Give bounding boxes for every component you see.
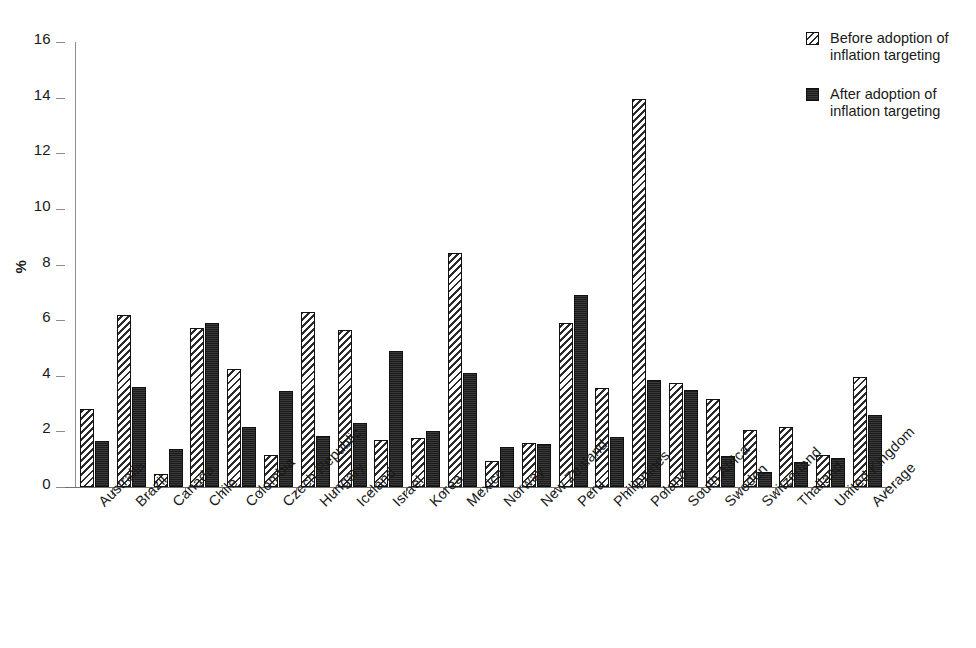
legend-entry-after: After adoption of inflation targeting [806, 86, 976, 120]
legend-swatch-after-icon [806, 88, 819, 101]
y-tick-mark [56, 42, 65, 43]
bar-group [80, 42, 109, 487]
y-tick-mark [56, 320, 65, 321]
bar-before [190, 328, 204, 487]
y-tick-mark [56, 98, 65, 99]
bar-group [743, 42, 772, 487]
y-tick-mark [56, 431, 65, 432]
bar-group [706, 42, 735, 487]
legend-entry-before: Before adoption of inflation targeting [806, 30, 976, 64]
y-tick-mark [56, 487, 65, 488]
bar-group [190, 42, 219, 487]
bar-group [669, 42, 698, 487]
legend-label-before: Before adoption of inflation targeting [830, 30, 976, 64]
legend-label-after: After adoption of inflation targeting [830, 86, 976, 120]
bar-after [463, 373, 477, 487]
bar-group [485, 42, 514, 487]
bar-before [117, 315, 131, 487]
bar-before [559, 323, 573, 487]
plot-area [75, 42, 885, 487]
bar-group [522, 42, 551, 487]
bar-group [374, 42, 403, 487]
bar-before [80, 409, 94, 487]
y-tick-mark [56, 376, 65, 377]
y-tick-label: 6 [42, 309, 51, 324]
y-tick-label: 16 [34, 31, 51, 46]
bar-group [411, 42, 440, 487]
y-tick-label: 10 [34, 198, 51, 213]
bar-after [426, 431, 440, 487]
bar-chart: % 0246810121416 AustraliaBrazilCanadaChi… [0, 0, 976, 648]
bar-after [95, 441, 109, 487]
bar-after [169, 449, 183, 487]
y-tick-mark [56, 265, 65, 266]
bar-group [595, 42, 624, 487]
bar-after [610, 437, 624, 487]
bar-after [242, 427, 256, 487]
y-tick-label: 8 [42, 254, 51, 269]
bar-group [227, 42, 256, 487]
bar-before [632, 99, 646, 487]
bar-group [338, 42, 367, 487]
y-tick-label: 12 [34, 142, 51, 157]
y-tick-label: 14 [34, 87, 51, 102]
bar-group [632, 42, 661, 487]
bar-group [448, 42, 477, 487]
bar-group [779, 42, 808, 487]
y-tick-label: 2 [42, 420, 51, 435]
bar-before [448, 253, 462, 487]
bar-group [301, 42, 330, 487]
y-tick-mark [56, 209, 65, 210]
bar-group [154, 42, 183, 487]
legend-swatch-before-icon [806, 32, 819, 45]
bar-before [301, 312, 315, 487]
y-tick-mark [56, 153, 65, 154]
y-tick-label: 4 [42, 365, 51, 380]
bar-group [264, 42, 293, 487]
y-tick-label: 0 [42, 476, 51, 491]
bar-after [389, 351, 403, 487]
bar-group [117, 42, 146, 487]
chart-legend: Before adoption of inflation targeting A… [806, 30, 976, 142]
bar-group [559, 42, 588, 487]
y-axis-title: % [12, 260, 29, 274]
bar-before [227, 369, 241, 487]
